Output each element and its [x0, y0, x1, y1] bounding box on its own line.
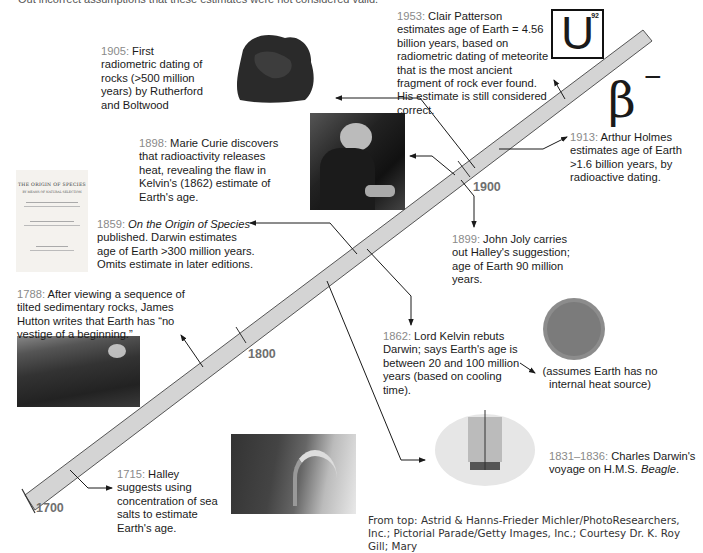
marie-curie-photo: [310, 113, 405, 210]
event-1715-year: 1715:: [117, 468, 145, 480]
event-1913-year: 1913:: [570, 131, 598, 143]
event-1898-year: 1898:: [139, 137, 167, 149]
event-1788-year: 1788:: [17, 288, 45, 300]
year-label-1900: 1900: [473, 180, 501, 194]
event-1899-year: 1899:: [452, 233, 480, 245]
event-1898-text: 1898: Marie Curie discovers that radioac…: [139, 137, 279, 204]
event-1913-text: 1913: Arthur Holmes estimates age of Ear…: [570, 131, 700, 185]
event-1953-year: 1953:: [397, 10, 425, 22]
event-1862-year: 1862:: [383, 330, 411, 342]
year-label-1700: 1700: [36, 501, 64, 515]
uranium-symbol: U: [561, 8, 594, 58]
book-subtitle: BY MEANS OF NATURAL SELECTION: [16, 190, 88, 194]
tilted-sedimentary-rocks-photo: [17, 336, 140, 407]
event-1899-text: 1899: John Joly carries out Halley's sug…: [452, 233, 572, 287]
ocean-wave-photo: [231, 434, 356, 514]
event-1859-text: 1859: On the Origin of Species published…: [97, 218, 257, 272]
event-1953-description: Clair Patterson estimates age of Earth =…: [397, 10, 548, 116]
beta-minus-sign: −: [644, 60, 662, 94]
event-1831-ship-name: Beagle: [641, 463, 676, 475]
beta-symbol: β: [608, 72, 636, 128]
event-1953-text: 1953: Clair Patterson estimates age of E…: [397, 10, 549, 117]
event-1788-text: 1788: After viewing a sequence of tilted…: [17, 288, 207, 342]
event-1862-text: 1862: Lord Kelvin rebuts Darwin; says Ea…: [383, 330, 523, 397]
origin-of-species-title-page: THE ORIGIN OF SPECIES BY MEANS OF NATURA…: [16, 170, 88, 272]
arrow-1862: [367, 249, 411, 325]
uranium-element-box: 92 U: [551, 9, 604, 59]
event-1905-year: 1905:: [101, 45, 129, 57]
event-1905-text: 1905: First radiometric dating of rocks …: [101, 45, 211, 112]
event-1831-end: .: [676, 463, 679, 475]
event-1715-text: 1715: Halley suggests using concentratio…: [117, 468, 227, 535]
arrow-1859: [250, 223, 357, 254]
event-1859-book-title: On the Origin of Species: [125, 218, 250, 230]
kelvin-note: (assumes Earth has no internal heat sour…: [535, 365, 665, 392]
photo-credits: From top: Astrid & Hanns-Frieder Michler…: [368, 514, 698, 553]
beta-minus-symbol: β −: [608, 72, 636, 128]
event-1831-year: 1831–1836:: [549, 450, 608, 462]
event-1859-year: 1859:: [97, 218, 125, 230]
arrow-1898: [410, 156, 455, 175]
event-1831-text: 1831–1836: Charles Darwin's voyage on H.…: [549, 450, 699, 477]
event-1859-description: published. Darwin estimates age of Earth…: [97, 231, 255, 270]
book-title: THE ORIGIN OF SPECIES: [16, 182, 88, 187]
year-label-1800: 1800: [248, 347, 276, 361]
